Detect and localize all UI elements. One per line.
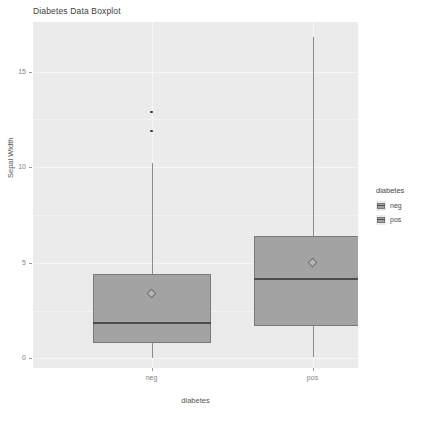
legend-key-median-line xyxy=(377,205,385,206)
grid-line-minor xyxy=(33,119,358,120)
chart-title: Diabetes Data Boxplot xyxy=(33,6,121,16)
legend-key-icon xyxy=(376,215,386,225)
whisker-upper xyxy=(313,37,314,236)
y-tick-mark xyxy=(29,263,32,264)
y-tick-mark xyxy=(29,72,32,73)
legend-items: negpos xyxy=(376,199,424,226)
legend-key-icon xyxy=(376,201,386,211)
legend-item-pos[interactable]: pos xyxy=(376,213,424,226)
y-tick-label: 15 xyxy=(4,68,26,75)
chart-root: Diabetes Data Boxplot 051015 Sepal Width… xyxy=(0,0,426,421)
y-tick-label: 5 xyxy=(4,259,26,266)
legend-title: diabetes xyxy=(376,186,424,195)
outlier-point xyxy=(150,130,153,133)
y-tick-label: 0 xyxy=(4,354,26,361)
box-pos xyxy=(254,236,359,326)
legend-item-neg[interactable]: neg xyxy=(376,199,424,212)
y-axis-title: Sepal Width xyxy=(6,138,15,178)
whisker-upper xyxy=(152,163,153,274)
legend: diabetes negpos xyxy=(376,186,424,227)
x-tick-mark xyxy=(313,368,314,371)
plot-panel xyxy=(33,22,358,368)
legend-key-median-line xyxy=(377,219,385,220)
whisker-lower xyxy=(313,326,314,357)
box-neg xyxy=(93,274,211,343)
whisker-lower xyxy=(152,343,153,358)
outlier-point xyxy=(150,111,153,114)
legend-label: pos xyxy=(390,216,401,223)
x-tick-label-neg: neg xyxy=(132,374,172,381)
legend-label: neg xyxy=(390,202,402,209)
grid-line-major xyxy=(33,358,358,359)
grid-line-major xyxy=(33,167,358,168)
median-line xyxy=(254,278,359,280)
x-axis-title: diabetes xyxy=(33,396,358,405)
y-tick-mark xyxy=(29,167,32,168)
x-tick-mark xyxy=(152,368,153,371)
grid-line-major xyxy=(33,72,358,73)
grid-line-minor xyxy=(33,215,358,216)
x-tick-label-pos: pos xyxy=(293,374,333,381)
y-tick-mark xyxy=(29,358,32,359)
median-line xyxy=(93,322,211,324)
